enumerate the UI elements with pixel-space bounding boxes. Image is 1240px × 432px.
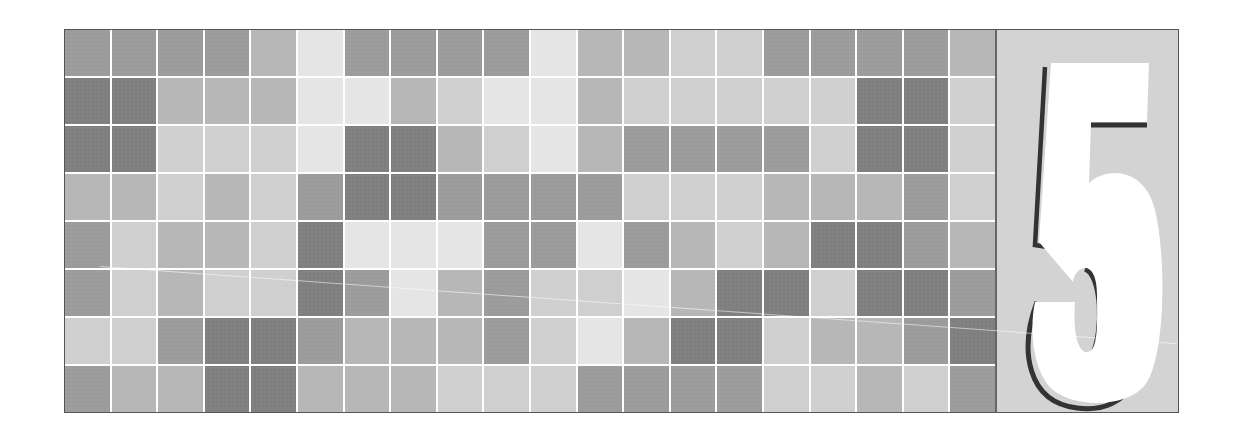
mosaic-tile bbox=[298, 270, 343, 316]
mosaic-tile bbox=[904, 30, 949, 76]
mosaic-tile bbox=[65, 318, 110, 364]
mosaic-tile bbox=[205, 78, 250, 124]
mosaic-tile bbox=[764, 366, 809, 412]
mosaic-tile bbox=[904, 222, 949, 268]
mosaic-tile bbox=[158, 30, 203, 76]
mosaic-tile bbox=[904, 174, 949, 220]
mosaic-tile bbox=[671, 222, 716, 268]
mosaic-tile bbox=[251, 78, 296, 124]
mosaic-tile bbox=[857, 366, 902, 412]
mosaic-tile bbox=[65, 366, 110, 412]
mosaic-tile bbox=[251, 174, 296, 220]
mosaic-tile bbox=[112, 78, 157, 124]
mosaic-tile bbox=[345, 78, 390, 124]
mosaic-tile bbox=[578, 318, 623, 364]
mosaic-tile bbox=[65, 78, 110, 124]
mosaic-tile bbox=[624, 318, 669, 364]
mosaic-tile bbox=[857, 78, 902, 124]
mosaic-tile bbox=[624, 78, 669, 124]
mosaic-tile bbox=[578, 30, 623, 76]
mosaic-tile bbox=[484, 222, 529, 268]
mosaic-tile bbox=[671, 174, 716, 220]
mosaic-tile bbox=[764, 30, 809, 76]
mosaic-tile bbox=[65, 30, 110, 76]
mosaic-tile bbox=[624, 30, 669, 76]
mosaic-tile bbox=[438, 30, 483, 76]
mosaic-tile bbox=[205, 366, 250, 412]
mosaic-tile bbox=[950, 366, 995, 412]
mosaic-tile bbox=[578, 126, 623, 172]
mosaic-tile bbox=[531, 366, 576, 412]
mosaic-tile bbox=[391, 318, 436, 364]
mosaic-tile bbox=[764, 222, 809, 268]
mosaic-tile bbox=[391, 174, 436, 220]
chapter-number-panel: 5 bbox=[997, 30, 1178, 412]
mosaic-tile bbox=[298, 78, 343, 124]
mosaic-tile bbox=[578, 78, 623, 124]
mosaic-tile bbox=[345, 366, 390, 412]
mosaic-tile bbox=[764, 126, 809, 172]
mosaic-tile bbox=[251, 318, 296, 364]
mosaic-tile bbox=[251, 126, 296, 172]
mosaic-tile bbox=[298, 366, 343, 412]
mosaic-tile bbox=[438, 270, 483, 316]
mosaic-tile bbox=[345, 270, 390, 316]
mosaic-tile bbox=[950, 222, 995, 268]
mosaic-tile bbox=[950, 318, 995, 364]
mosaic-tile bbox=[112, 222, 157, 268]
mosaic-tile bbox=[531, 30, 576, 76]
mosaic-tile bbox=[578, 270, 623, 316]
mosaic-tile bbox=[904, 366, 949, 412]
mosaic-tile bbox=[717, 126, 762, 172]
mosaic-tile bbox=[484, 318, 529, 364]
mosaic-tile bbox=[484, 30, 529, 76]
mosaic-tile bbox=[904, 126, 949, 172]
mosaic-tile bbox=[624, 270, 669, 316]
mosaic-tile bbox=[717, 30, 762, 76]
mosaic-tile bbox=[764, 318, 809, 364]
mosaic-tile bbox=[391, 30, 436, 76]
mosaic-tile bbox=[811, 126, 856, 172]
mosaic-tile bbox=[391, 78, 436, 124]
mosaic-tile bbox=[857, 222, 902, 268]
mosaic-tile bbox=[345, 222, 390, 268]
mosaic-tile bbox=[158, 222, 203, 268]
mosaic-tile bbox=[531, 126, 576, 172]
mosaic-tile bbox=[438, 318, 483, 364]
mosaic-tile bbox=[484, 126, 529, 172]
mosaic-tile bbox=[438, 174, 483, 220]
mosaic-tile bbox=[158, 270, 203, 316]
mosaic-tile bbox=[298, 126, 343, 172]
mosaic-tile bbox=[298, 222, 343, 268]
mosaic-tile bbox=[811, 318, 856, 364]
mosaic-tile bbox=[904, 78, 949, 124]
mosaic-tile bbox=[624, 126, 669, 172]
tile-mosaic-grid bbox=[65, 30, 997, 412]
mosaic-tile bbox=[205, 30, 250, 76]
mosaic-tile bbox=[578, 366, 623, 412]
mosaic-tile bbox=[857, 30, 902, 76]
mosaic-tile bbox=[904, 270, 949, 316]
mosaic-tile bbox=[158, 366, 203, 412]
mosaic-tile bbox=[345, 174, 390, 220]
mosaic-tile bbox=[717, 366, 762, 412]
mosaic-tile bbox=[298, 318, 343, 364]
mosaic-tile bbox=[251, 222, 296, 268]
mosaic-tile bbox=[205, 126, 250, 172]
mosaic-tile bbox=[950, 78, 995, 124]
mosaic-tile bbox=[671, 30, 716, 76]
mosaic-tile bbox=[531, 270, 576, 316]
mosaic-tile bbox=[438, 78, 483, 124]
numeral-fill bbox=[1032, 63, 1162, 403]
mosaic-tile bbox=[484, 174, 529, 220]
mosaic-tile bbox=[857, 318, 902, 364]
mosaic-tile bbox=[624, 366, 669, 412]
mosaic-tile bbox=[484, 366, 529, 412]
mosaic-tile bbox=[857, 270, 902, 316]
mosaic-tile bbox=[904, 318, 949, 364]
mosaic-tile bbox=[345, 318, 390, 364]
mosaic-tile bbox=[391, 222, 436, 268]
mosaic-tile bbox=[531, 78, 576, 124]
mosaic-tile bbox=[251, 30, 296, 76]
mosaic-tile bbox=[578, 222, 623, 268]
